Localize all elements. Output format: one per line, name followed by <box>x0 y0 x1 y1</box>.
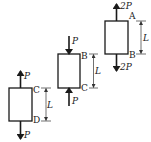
point-label-c: C <box>81 83 88 93</box>
block-ab: 2P 2P A B L <box>105 1 149 72</box>
block-cd: P P C D L <box>9 71 53 140</box>
force-label-bottom: P <box>71 96 79 106</box>
point-label-b: B <box>81 51 88 61</box>
free-body-diagram: 2P 2P A B L P P B C L P P C D L <box>0 0 151 142</box>
point-label-a: A <box>128 11 136 21</box>
block-bc: P P B C L <box>58 36 101 106</box>
length-label: L <box>142 33 149 43</box>
force-label-bottom: 2P <box>119 62 133 72</box>
force-label-top: P <box>71 36 79 46</box>
length-label: L <box>46 100 53 110</box>
point-label-d: D <box>33 115 40 125</box>
segment-bc-rect <box>58 54 80 88</box>
length-label: L <box>94 66 101 76</box>
point-label-b: B <box>129 50 136 60</box>
force-label-top: P <box>23 71 31 81</box>
point-label-c: C <box>33 85 40 95</box>
force-label-bottom: P <box>23 130 31 140</box>
segment-cd-rect <box>9 88 32 121</box>
segment-ab-rect <box>105 21 128 54</box>
force-label-top: 2P <box>119 1 133 11</box>
